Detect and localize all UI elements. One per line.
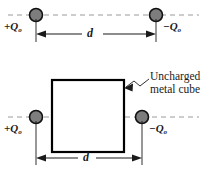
bottom-negative-charge-label: −Qo [149,123,167,136]
dimension-arrowhead-left [36,155,46,162]
metal-cube [52,80,124,152]
bottom-dimension-label: d [83,151,89,163]
callout-line-2: metal cube [150,83,200,96]
bottom-positive-charge-subscript: o [18,128,22,136]
bottom-positive-charge-label: +Qo [4,123,22,136]
top-negative-charge-subscript: o [178,26,182,34]
dimension-arrowhead-left [36,31,46,38]
physics-figure: +Qo −Qo d [0,0,207,175]
top-negative-charge-label: −Qo [163,21,181,34]
callout-line-1: Uncharged [150,70,200,83]
top-negative-charge-text: −Q [163,20,178,32]
top-dimension-label: d [87,27,93,39]
bottom-positive-charge-text: +Q [4,122,18,134]
top-positive-charge-label: +Qo [4,21,22,34]
top-positive-charge-text: +Q [4,20,18,32]
uncharged-metal-cube-callout: Uncharged metal cube [150,70,200,95]
bottom-negative-charge-subscript: o [164,128,168,136]
dimension-arrowhead-right [132,155,142,162]
bottom-negative-charge-text: −Q [149,122,164,134]
top-positive-charge-subscript: o [18,26,22,34]
dimension-arrowhead-right [146,31,156,38]
